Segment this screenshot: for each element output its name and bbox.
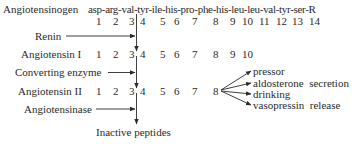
aldosterone-arrow — [221, 83, 251, 90]
pressor-arrow — [221, 71, 251, 90]
arrows-layer — [0, 0, 361, 146]
